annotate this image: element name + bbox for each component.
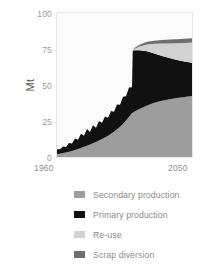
y-tick-75: 75 — [24, 45, 52, 55]
legend-swatch-re-use — [74, 231, 85, 238]
legend-item-secondary-production: Secondary production — [74, 186, 180, 203]
legend-item-re-use: Re-use — [74, 226, 122, 243]
x-tick-end: 2050 — [168, 163, 188, 173]
y-tick-50: 50 — [24, 81, 52, 91]
legend-swatch-secondary-production — [74, 191, 85, 198]
legend-swatch-scrap-diversion — [74, 251, 85, 258]
legend-label-secondary-production: Secondary production — [93, 190, 180, 200]
legend-swatch-primary-production — [74, 211, 85, 218]
y-axis-tick-labels: 100 75 50 25 0 — [22, 0, 52, 180]
y-tick-100: 100 — [24, 9, 52, 19]
legend-label-primary-production: Primary production — [93, 210, 168, 220]
chart-legend: Secondary production Primary production … — [0, 184, 216, 267]
chart-plot-region: Mt 100 75 50 25 0 1960 2050 — [0, 0, 216, 180]
legend-item-scrap-diversion: Scrap diversion — [74, 246, 154, 263]
stacked-area-svg — [57, 13, 192, 157]
stacked-area-figure: Mt 100 75 50 25 0 1960 2050 Secondary pr… — [0, 0, 216, 267]
legend-label-scrap-diversion: Scrap diversion — [93, 250, 154, 260]
x-tick-start: 1960 — [34, 163, 54, 173]
plot-area — [56, 12, 193, 158]
y-tick-0: 0 — [24, 153, 52, 163]
y-tick-25: 25 — [24, 117, 52, 127]
legend-label-re-use: Re-use — [93, 230, 122, 240]
legend-item-primary-production: Primary production — [74, 206, 168, 223]
